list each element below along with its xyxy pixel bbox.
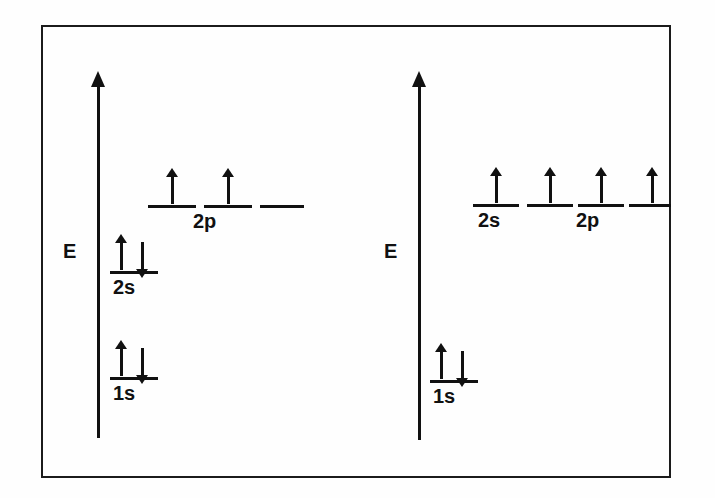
- arrow-stem: [651, 174, 654, 203]
- arrow-stem: [461, 351, 464, 380]
- figure-frame: [41, 25, 671, 478]
- arrow-stem: [120, 347, 123, 376]
- orbital-label-2s: 2s: [113, 277, 135, 297]
- orbital-label-2p: 2p: [576, 210, 599, 230]
- figure-canvas: E 1s 2s: [0, 0, 715, 498]
- level-line-2p-x: [527, 204, 573, 207]
- energy-axis-shaft: [97, 85, 100, 438]
- level-line-2s: [110, 271, 158, 274]
- arrow-stem: [141, 242, 144, 271]
- level-line-2p-y: [578, 204, 624, 207]
- energy-axis-label: E: [384, 241, 398, 261]
- orbital-label-2p: 2p: [193, 211, 216, 231]
- arrow-stem: [549, 174, 552, 203]
- level-line-2p-x: [148, 205, 196, 208]
- arrow-stem: [171, 175, 174, 204]
- arrow-stem: [120, 241, 123, 270]
- orbital-label-2s: 2s: [478, 210, 500, 230]
- level-line-1s: [110, 377, 158, 380]
- orbital-label-1s: 1s: [433, 386, 455, 406]
- level-line-2p-z: [629, 204, 671, 207]
- orbital-label-1s: 1s: [113, 383, 135, 403]
- arrow-stem: [227, 175, 230, 204]
- arrow-head-down-icon: [136, 269, 148, 278]
- arrow-stem: [495, 174, 498, 203]
- arrow-head-down-icon: [456, 378, 468, 387]
- level-line-1s: [430, 380, 478, 383]
- arrow-stem: [141, 348, 144, 377]
- level-line-2p-z: [260, 205, 304, 208]
- energy-axis-label: E: [63, 241, 77, 261]
- arrow-stem: [600, 174, 603, 203]
- arrow-head-down-icon: [136, 375, 148, 384]
- level-line-2s: [473, 204, 519, 207]
- level-line-2p-y: [204, 205, 252, 208]
- arrow-stem: [440, 350, 443, 379]
- energy-axis-shaft: [418, 85, 421, 440]
